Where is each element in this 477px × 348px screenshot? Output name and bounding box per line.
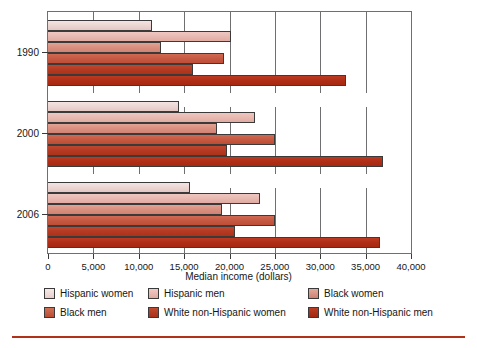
bar-1990-black-men xyxy=(48,53,224,64)
x-gridline xyxy=(411,12,412,253)
legend-swatch-icon xyxy=(148,288,159,299)
bar-2006-black-women xyxy=(48,204,222,215)
legend-swatch-icon xyxy=(308,307,319,318)
legend-swatch-icon xyxy=(44,307,55,318)
median-income-bar-chart: Median income (dollars) Hispanic womenHi… xyxy=(0,0,477,348)
bottom-accent-rule xyxy=(12,336,465,338)
x-axis-tick xyxy=(230,254,231,259)
x-gridline xyxy=(275,12,276,253)
bar-2000-hispanic-women xyxy=(48,101,179,112)
legend-item-black-men[interactable]: Black men xyxy=(44,307,107,318)
x-axis-tick xyxy=(366,254,367,259)
x-axis-tick-label: 10,000 xyxy=(124,261,153,272)
bar-2006-white-non-hispanic-women xyxy=(48,226,235,237)
x-axis-tick xyxy=(275,254,276,259)
legend-item-hispanic-men[interactable]: Hispanic men xyxy=(148,288,225,299)
legend-row-bottom: Black menWhite non-Hispanic womenWhite n… xyxy=(44,307,464,324)
legend-label: Black women xyxy=(324,288,383,299)
plot-area xyxy=(47,11,412,254)
y-axis-tick xyxy=(42,133,48,134)
legend-item-white-non-hispanic-women[interactable]: White non-Hispanic women xyxy=(148,307,286,318)
y-axis-label-2000: 2000 xyxy=(8,127,39,138)
x-axis-tick-label: 5,000 xyxy=(81,261,105,272)
chart-legend: Hispanic womenHispanic menBlack women Bl… xyxy=(44,288,464,326)
bar-2006-black-men xyxy=(48,215,275,226)
y-axis-label-1990: 1990 xyxy=(8,46,39,57)
x-axis-tick-label: 30,000 xyxy=(306,261,335,272)
legend-swatch-icon xyxy=(44,288,55,299)
x-axis-tick-label: 40,000 xyxy=(396,261,425,272)
bar-1990-hispanic-men xyxy=(48,31,231,42)
legend-label: White non-Hispanic women xyxy=(164,307,286,318)
legend-item-black-women[interactable]: Black women xyxy=(308,288,383,299)
x-axis-tick-label: 20,000 xyxy=(215,261,244,272)
x-axis-tick xyxy=(411,254,412,259)
bar-1990-white-non-hispanic-men xyxy=(48,75,346,86)
x-axis-tick-label: 35,000 xyxy=(351,261,380,272)
x-axis-tick-label: 25,000 xyxy=(260,261,289,272)
legend-label: White non-Hispanic men xyxy=(324,307,433,318)
legend-swatch-icon xyxy=(308,288,319,299)
bar-2000-black-men xyxy=(48,134,275,145)
y-axis-tick xyxy=(42,52,48,53)
x-gridline xyxy=(320,12,321,253)
legend-row-top: Hispanic womenHispanic menBlack women xyxy=(44,288,464,305)
x-axis-tick xyxy=(184,254,185,259)
x-axis-tick xyxy=(139,254,140,259)
y-axis-tick xyxy=(42,214,48,215)
legend-label: Hispanic men xyxy=(164,288,225,299)
x-axis-tick-label: 0 xyxy=(45,261,50,272)
x-gridline xyxy=(366,12,367,253)
bar-2006-hispanic-men xyxy=(48,193,260,204)
legend-label: Black men xyxy=(60,307,107,318)
bar-2000-white-non-hispanic-women xyxy=(48,145,227,156)
bar-2000-white-non-hispanic-men xyxy=(48,156,383,167)
bar-1990-black-women xyxy=(48,42,161,53)
bar-2006-hispanic-women xyxy=(48,182,190,193)
x-axis-title: Median income (dollars) xyxy=(0,271,477,282)
legend-label: Hispanic women xyxy=(60,288,133,299)
x-axis-tick-label: 15,000 xyxy=(170,261,199,272)
y-axis-label-2006: 2006 xyxy=(8,208,39,219)
bar-2006-white-non-hispanic-men xyxy=(48,237,380,248)
legend-item-white-non-hispanic-men[interactable]: White non-Hispanic men xyxy=(308,307,433,318)
bar-1990-hispanic-women xyxy=(48,20,152,31)
x-axis-tick xyxy=(320,254,321,259)
bar-2000-hispanic-men xyxy=(48,112,255,123)
bar-1990-white-non-hispanic-women xyxy=(48,64,193,75)
legend-item-hispanic-women[interactable]: Hispanic women xyxy=(44,288,133,299)
x-axis-tick xyxy=(93,254,94,259)
legend-swatch-icon xyxy=(148,307,159,318)
x-axis-tick xyxy=(48,254,49,259)
bar-2000-black-women xyxy=(48,123,217,134)
